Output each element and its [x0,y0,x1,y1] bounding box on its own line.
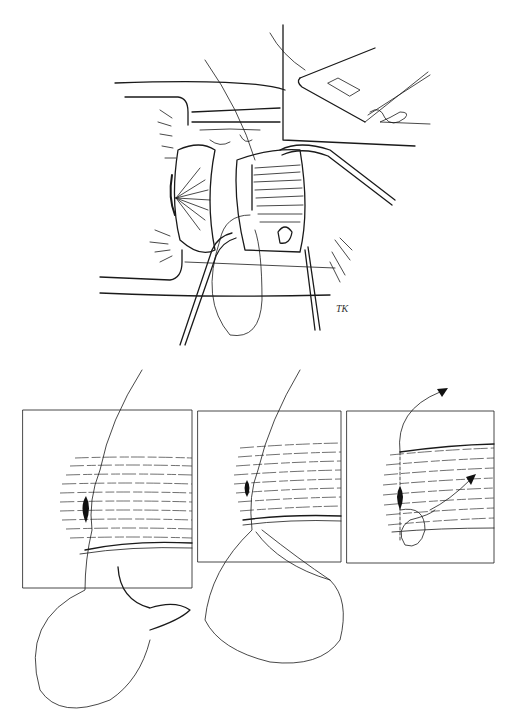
panel-d-locking-suture [347,388,494,563]
figure-artwork: TK [0,0,520,721]
artist-signature: TK [336,303,350,314]
panel-a-eye-surgery: TK [100,60,395,345]
panel-a-inset [270,25,430,146]
panel-c-suture [198,370,343,663]
panel-b-suture [23,370,192,708]
